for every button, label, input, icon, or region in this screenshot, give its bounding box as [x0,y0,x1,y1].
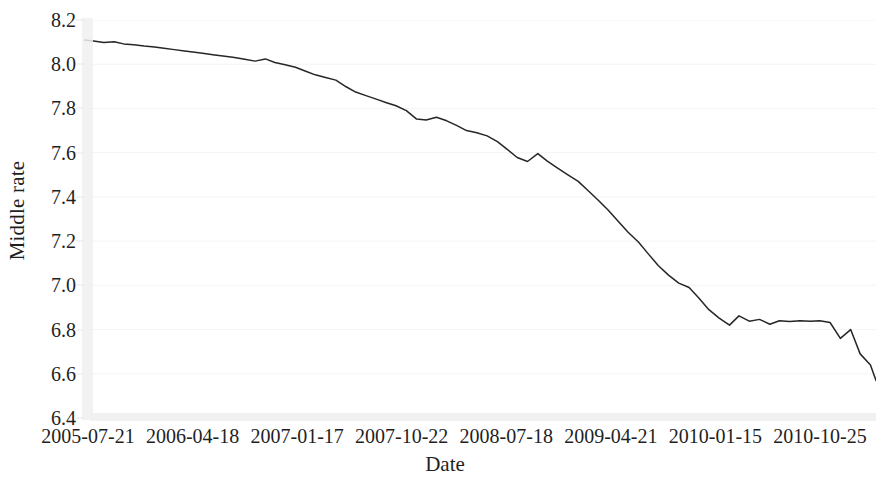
y-axis-tick-mark [76,285,84,286]
x-axis-title-text: Date [425,452,465,476]
y-axis-tick-label: 7.0 [22,275,76,295]
x-axis-tick-label: 2008-07-18 [460,423,553,449]
y-axis-tick-mark [76,152,84,153]
x-axis-tick-label: 2009-04-21 [564,423,657,449]
y-axis-tick-mark [76,418,84,419]
x-axis-tick-label: 2005-07-21 [41,423,134,449]
x-axis-tick-label: 2006-04-18 [146,423,239,449]
chart-figure: Middle rate 8.28.07.87.67.47.27.06.86.66… [0,0,883,484]
y-axis-tick-mark [76,108,84,109]
plot-area [84,20,876,418]
y-axis-tick-label: 6.6 [22,364,76,384]
x-axis-tick-label: 2007-01-17 [250,423,343,449]
y-axis-tick-label: 7.2 [22,231,76,251]
y-axis-tick-mark [76,64,84,65]
y-axis-tick-label: 7.8 [22,98,76,118]
y-axis-tick-label: 8.2 [22,10,76,30]
left-edge-artifact-band [82,18,93,420]
y-axis-tick-label: 6.8 [22,320,76,340]
y-axis-tick-mark [76,241,84,242]
y-axis-tick-label: 7.4 [22,187,76,207]
x-axis-tick-label: 2010-10-25 [773,423,866,449]
x-axis-tick-label: 2010-01-15 [669,423,762,449]
y-axis-tick-mark [76,373,84,374]
chart-canvas [84,20,876,418]
y-axis-tick-label: 7.6 [22,143,76,163]
x-axis-tick-label: 2007-10-22 [355,423,448,449]
y-axis-tick-mark [76,20,84,21]
y-axis-tick-labels: 8.28.07.87.67.47.27.06.86.66.4 [22,0,76,484]
y-axis-tick-mark [76,329,84,330]
y-axis-tick-label: 8.0 [22,54,76,74]
gridlines [84,20,876,418]
x-axis-tick-labels: 2005-07-212006-04-182007-01-172007-10-22… [0,423,883,449]
x-axis-title: Date [0,452,883,477]
bottom-edge-artifact-band [90,413,876,421]
y-axis-tick-mark [76,196,84,197]
